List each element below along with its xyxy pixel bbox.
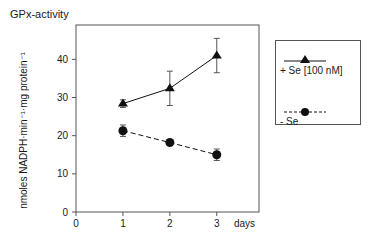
y-tick-label: 20: [57, 130, 69, 141]
y-tick-label: 30: [57, 92, 69, 103]
y-axis-label: nmoles NADPH·min⁻¹·mg protein⁻¹: [18, 51, 29, 208]
plot-frame: [76, 25, 259, 212]
circle-marker-icon: [118, 126, 127, 135]
triangle-marker-icon: [165, 83, 175, 91]
x-tick-label: 3: [214, 218, 220, 229]
y-tick-label: 40: [57, 54, 69, 65]
circle-marker-icon: [301, 108, 309, 116]
triangle-marker-icon: [300, 55, 310, 63]
legend-label-se: + Se [100 nM]: [280, 65, 343, 76]
circle-marker-icon: [165, 138, 174, 147]
x-axis-label: days: [234, 218, 255, 229]
x-tick-label: 0: [73, 218, 79, 229]
circle-marker-icon: [212, 150, 221, 159]
x-tick-label: 2: [167, 218, 173, 229]
legend-label-no-se: - Se: [280, 116, 298, 127]
triangle-marker-icon: [212, 51, 222, 59]
y-tick-label: 10: [57, 168, 69, 179]
legend-glyphs: [276, 41, 362, 126]
y-tick-label: 0: [62, 207, 68, 218]
x-tick-label: 1: [120, 218, 126, 229]
legend: + Se [100 nM] - Se: [275, 40, 361, 125]
